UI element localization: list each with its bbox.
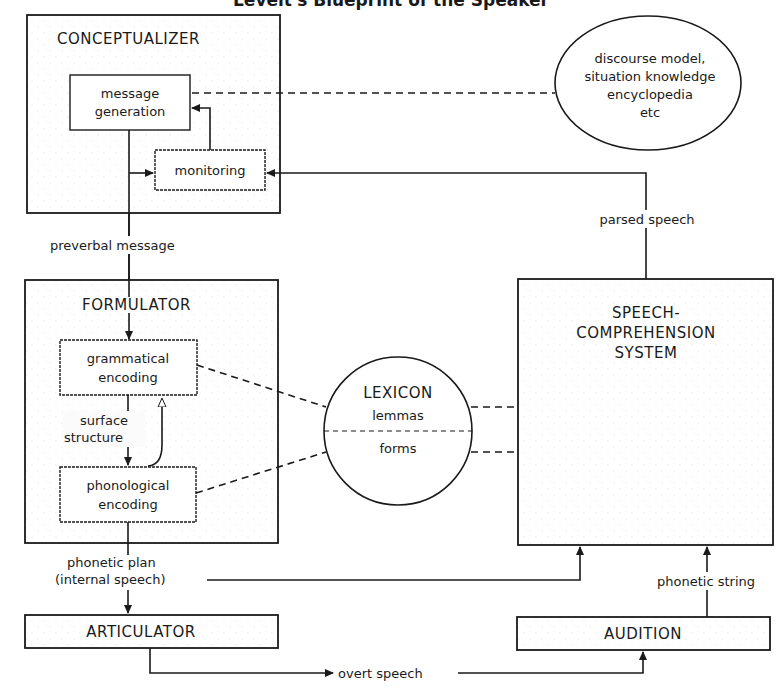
- overt-speech-arrow-right: [458, 652, 643, 673]
- message-generation-box: message generation: [70, 75, 190, 130]
- speech-comprehension-line3: SYSTEM: [615, 344, 678, 362]
- monitoring-box: monitoring: [155, 150, 265, 190]
- speech-comprehension-line2: COMPREHENSION: [576, 324, 716, 342]
- knowledge-line3: encyclopedia: [607, 87, 693, 102]
- conceptualizer-label: CONCEPTUALIZER: [57, 30, 200, 48]
- overt-speech-label: overt speech: [338, 666, 423, 681]
- phonological-encoding-line1: phonological: [87, 478, 170, 493]
- surface-structure-line1: surface: [80, 413, 128, 428]
- audition-label: AUDITION: [604, 625, 682, 643]
- overt-speech-arrow-left: [150, 648, 333, 673]
- lexicon-forms: forms: [379, 441, 416, 456]
- diagram-title: Levelt's Blueprint of the Speaker: [233, 0, 550, 10]
- parsed-speech-line: [267, 173, 646, 279]
- formulator-label: FORMULATOR: [82, 296, 191, 314]
- preverbal-message-label: preverbal message: [50, 238, 175, 253]
- knowledge-ellipse: discourse model, situation knowledge enc…: [555, 16, 741, 150]
- grammatical-encoding-line2: encoding: [98, 370, 158, 385]
- knowledge-line2: situation knowledge: [584, 69, 715, 84]
- audition-box: AUDITION: [517, 617, 770, 650]
- knowledge-line1: discourse model,: [595, 51, 706, 66]
- phonological-encoding-line2: encoding: [98, 497, 158, 512]
- message-generation-line1: message: [101, 86, 159, 101]
- grammatical-encoding-line1: grammatical: [87, 351, 169, 366]
- internal-speech-arrow: [207, 547, 580, 580]
- phonetic-plan-line1: phonetic plan: [67, 555, 156, 570]
- phonetic-plan-line2: (internal speech): [55, 572, 166, 587]
- phonetic-string-label: phonetic string: [657, 574, 755, 589]
- speech-comprehension-box: SPEECH- COMPREHENSION SYSTEM: [518, 279, 773, 545]
- lexicon-lemmas: lemmas: [372, 408, 424, 423]
- speaker-blueprint-diagram: Levelt's Blueprint of the Speaker CONCEP…: [0, 0, 783, 687]
- speech-comprehension-line1: SPEECH-: [612, 304, 680, 322]
- grammatical-encoding-box: grammatical encoding: [60, 340, 197, 395]
- message-generation-line2: generation: [95, 104, 166, 119]
- lexicon-label: LEXICON: [363, 384, 433, 402]
- articulator-box: ARTICULATOR: [25, 615, 278, 648]
- monitoring-label: monitoring: [175, 163, 246, 178]
- surface-structure-line2: structure: [64, 430, 123, 445]
- lexicon-circle: LEXICON lemmas forms: [324, 357, 472, 505]
- parsed-speech-label: parsed speech: [599, 212, 694, 227]
- knowledge-line4: etc: [640, 105, 660, 120]
- phonological-encoding-box: phonological encoding: [60, 467, 196, 522]
- articulator-label: ARTICULATOR: [86, 623, 195, 641]
